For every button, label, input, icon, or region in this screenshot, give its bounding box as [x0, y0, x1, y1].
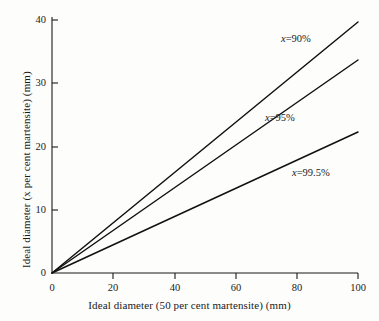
- y-tick-label-40: 40: [28, 15, 46, 26]
- x-tick-label-40: 40: [170, 283, 181, 294]
- series-line-90: [52, 22, 358, 273]
- x-axis-ticks: [113, 273, 358, 279]
- annotation-unit-90: %: [302, 33, 311, 44]
- series-annotation-95: x=95%: [265, 113, 295, 124]
- chart-figure: 40 30 20 10 0 0 20 40 60 80 100 x=90% x=…: [0, 0, 379, 321]
- annotation-value-995: 99.5: [303, 167, 321, 178]
- plot-area: [0, 0, 379, 321]
- annotation-unit-995: %: [321, 167, 330, 178]
- x-axis-title: Ideal diameter (50 per cent martensite) …: [0, 299, 379, 311]
- annotation-unit-95: %: [286, 112, 295, 123]
- annotation-value-90: 90: [292, 33, 303, 44]
- series-line-995: [52, 132, 358, 273]
- x-tick-label-100: 100: [350, 283, 366, 294]
- y-tick-label-0: 0: [28, 268, 46, 279]
- series-annotation-995: x=99.5%: [292, 168, 330, 179]
- y-axis-ticks: [52, 20, 58, 210]
- y-axis-title: Ideal diameter (x per cent martensite) (…: [20, 71, 32, 268]
- x-tick-label-60: 60: [231, 283, 242, 294]
- series-annotation-90: x=90%: [281, 34, 311, 45]
- x-tick-label-0: 0: [49, 283, 54, 294]
- x-tick-label-80: 80: [292, 283, 303, 294]
- annotation-value-95: 95: [276, 112, 287, 123]
- x-tick-label-20: 20: [108, 283, 119, 294]
